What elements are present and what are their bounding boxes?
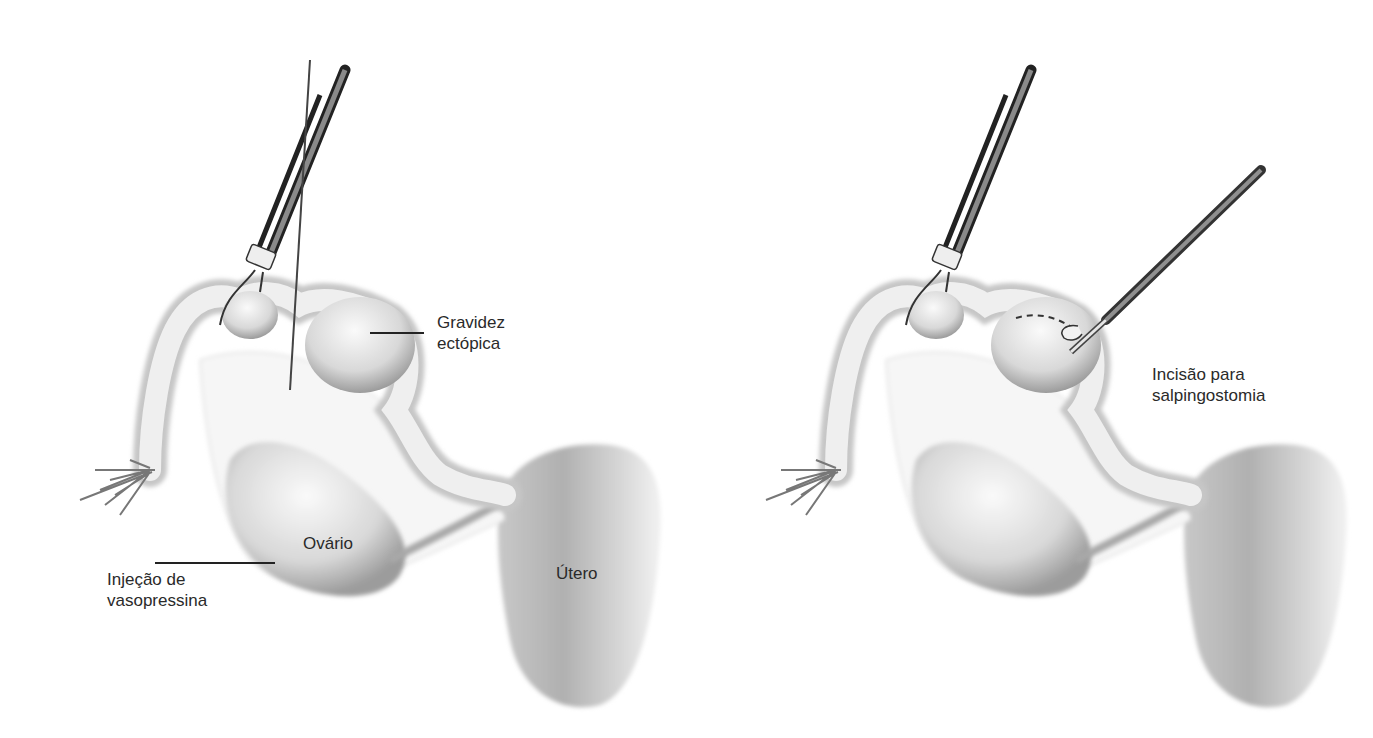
label-ovary: Ovário [303, 533, 353, 554]
ectopic-pregnancy-shape [991, 297, 1101, 393]
label-vasopressin-injection: Injeção de vasopressina [107, 569, 207, 611]
illustration-left [0, 0, 686, 738]
label-salpingostomy-incision: Incisão para salpingostomia [1152, 364, 1265, 406]
leader-injection [155, 562, 275, 564]
leader-ectopic [370, 332, 424, 334]
label-uterus: Útero [556, 563, 598, 584]
uterus-shape [1184, 444, 1347, 707]
label-ectopic-pregnancy: Gravidez ectópica [437, 312, 505, 354]
panel-salpingostomy-incision: Incisão para salpingostomia [686, 0, 1373, 738]
panel-vasopressin-injection: Gravidez ectópica Ovário Útero Injeção d… [0, 0, 686, 738]
illustration-right [686, 0, 1373, 738]
